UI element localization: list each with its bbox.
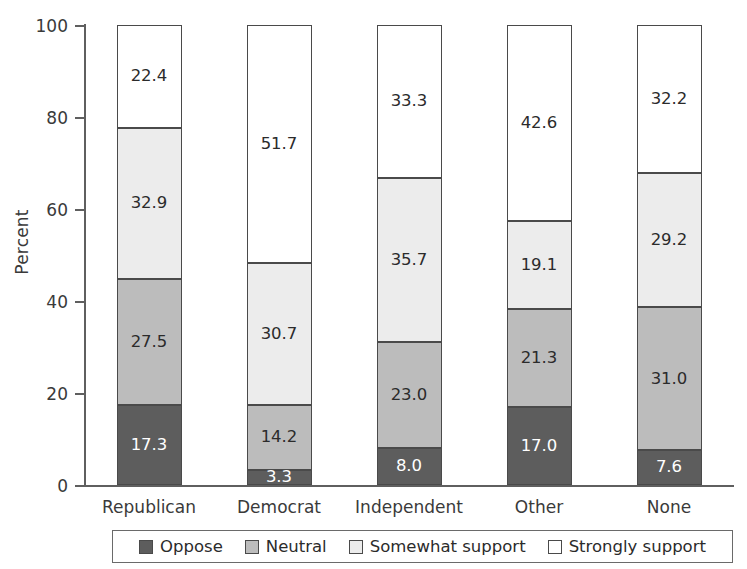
y-tick-label: 80 xyxy=(46,108,68,128)
bar-segment-value: 22.4 xyxy=(131,68,168,85)
bar[interactable]: 17.021.319.142.6 xyxy=(507,25,572,485)
y-tick-mark: 100 xyxy=(75,25,84,27)
y-tick-mark: 80 xyxy=(75,117,84,119)
y-tick-mark: 0 xyxy=(75,485,84,487)
bar-segment-value: 35.7 xyxy=(391,252,428,269)
bar-segment-value: 33.3 xyxy=(391,93,428,110)
bar-segment-value: 27.5 xyxy=(131,334,168,351)
bar[interactable]: 3.314.230.751.7 xyxy=(247,25,312,485)
bar-segment[interactable]: 29.2 xyxy=(637,173,702,307)
stacked-bar-chart: Percent 020406080100 17.327.532.922.43.3… xyxy=(0,0,747,569)
bar-segment[interactable]: 31.0 xyxy=(637,307,702,450)
bar-segment[interactable]: 33.3 xyxy=(377,25,442,178)
bar-segment[interactable]: 32.2 xyxy=(637,25,702,173)
y-tick-label: 20 xyxy=(46,384,68,404)
bar-segment[interactable]: 3.3 xyxy=(247,470,312,485)
legend-label: Oppose xyxy=(160,537,223,556)
bar-segment-value: 17.0 xyxy=(521,438,558,455)
y-tick-label: 40 xyxy=(46,292,68,312)
x-axis-label: None xyxy=(589,497,747,517)
bar-segment-value: 29.2 xyxy=(651,232,688,249)
bar-segment[interactable]: 21.3 xyxy=(507,309,572,407)
bar-segment[interactable]: 22.4 xyxy=(117,25,182,128)
bar-segment-value: 30.7 xyxy=(261,326,298,343)
y-tick-label: 60 xyxy=(46,200,68,220)
legend-label: Somewhat support xyxy=(370,537,526,556)
bar-segment-value: 32.2 xyxy=(651,91,688,108)
bar-segment[interactable]: 42.6 xyxy=(507,25,572,221)
bar-segment[interactable]: 7.6 xyxy=(637,450,702,485)
bar-segment[interactable]: 17.0 xyxy=(507,407,572,485)
y-tick-mark: 20 xyxy=(75,393,84,395)
bar-segment[interactable]: 19.1 xyxy=(507,221,572,309)
bar-segment[interactable]: 23.0 xyxy=(377,342,442,448)
bar-segment-value: 32.9 xyxy=(131,195,168,212)
bar-segment-value: 42.6 xyxy=(521,115,558,132)
legend-swatch xyxy=(349,540,363,554)
y-tick-label: 100 xyxy=(36,16,68,36)
legend-label: Strongly support xyxy=(569,537,706,556)
bar-segment-value: 19.1 xyxy=(521,257,558,274)
legend-swatch xyxy=(245,540,259,554)
x-axis-line xyxy=(84,485,734,487)
bar-segment-value: 3.3 xyxy=(266,469,292,486)
legend-swatch xyxy=(139,540,153,554)
plot-area: 020406080100 17.327.532.922.43.314.230.7… xyxy=(84,25,734,485)
bar-segment[interactable]: 51.7 xyxy=(247,25,312,263)
bar-segment-value: 23.0 xyxy=(391,387,428,404)
legend-item[interactable]: Somewhat support xyxy=(349,537,526,556)
bar-segment-value: 8.0 xyxy=(396,458,422,475)
bar-segment[interactable]: 27.5 xyxy=(117,279,182,406)
bar[interactable]: 8.023.035.733.3 xyxy=(377,25,442,485)
bar-segment[interactable]: 17.3 xyxy=(117,405,182,485)
bar-segment[interactable]: 30.7 xyxy=(247,263,312,404)
bar-segment-value: 51.7 xyxy=(261,136,298,153)
bar-segment-value: 17.3 xyxy=(131,437,168,454)
bar-segment[interactable]: 32.9 xyxy=(117,128,182,279)
legend-swatch xyxy=(548,540,562,554)
y-axis-title: Percent xyxy=(12,182,32,302)
chart-legend: OpposeNeutralSomewhat supportStrongly su… xyxy=(112,530,733,563)
bar-segment-value: 31.0 xyxy=(651,371,688,388)
y-tick-mark: 60 xyxy=(75,209,84,211)
bar[interactable]: 7.631.029.232.2 xyxy=(637,25,702,485)
legend-item[interactable]: Oppose xyxy=(139,537,223,556)
y-tick-mark: 40 xyxy=(75,301,84,303)
y-tick-label: 0 xyxy=(57,476,68,496)
y-axis-line xyxy=(84,24,86,485)
bar-segment-value: 21.3 xyxy=(521,350,558,367)
bar-segment[interactable]: 8.0 xyxy=(377,448,442,485)
bar-segment[interactable]: 14.2 xyxy=(247,405,312,470)
bar-segment-value: 14.2 xyxy=(261,429,298,446)
bar-segment-value: 7.6 xyxy=(656,459,682,476)
legend-item[interactable]: Strongly support xyxy=(548,537,706,556)
bar[interactable]: 17.327.532.922.4 xyxy=(117,25,182,485)
legend-item[interactable]: Neutral xyxy=(245,537,327,556)
legend-label: Neutral xyxy=(266,537,327,556)
bar-segment[interactable]: 35.7 xyxy=(377,178,442,342)
